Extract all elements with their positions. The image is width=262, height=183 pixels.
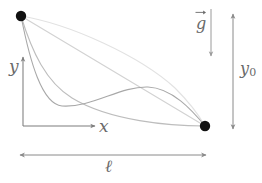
gravity-vector-stack: g <box>196 16 206 32</box>
lower-right-endpoint-dot <box>200 121 210 131</box>
upper-left-endpoint-dot <box>16 11 26 21</box>
height-label: y0 <box>240 61 256 78</box>
curve-straight-chord <box>21 16 205 126</box>
diagram-canvas <box>0 0 262 183</box>
gravity-label-base: g <box>196 14 206 33</box>
length-label: ℓ <box>105 158 112 175</box>
figure-container: y x ℓ y0 g <box>0 0 262 183</box>
gravity-vector-label: g <box>196 16 206 32</box>
height-label-subscript: 0 <box>249 66 256 79</box>
height-label-base: y <box>240 59 249 78</box>
vector-accent-arrow-icon <box>195 9 206 15</box>
y-axis-label: y <box>9 58 19 75</box>
descent-path-curves <box>21 16 205 126</box>
x-axis-label: x <box>99 118 109 135</box>
